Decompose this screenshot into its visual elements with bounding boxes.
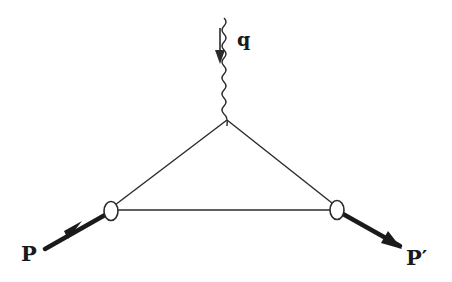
incoming-momentum-line	[45, 215, 105, 249]
photon-wavy-line	[222, 18, 227, 126]
diagram-svg	[0, 0, 452, 282]
incoming-label-p: P	[21, 243, 37, 264]
feynman-diagram: q P P′	[0, 0, 452, 282]
left-vertex-blob	[104, 202, 118, 221]
triangle-right-edge	[227, 120, 332, 203]
outgoing-arrowhead-icon	[381, 231, 402, 249]
photon-label-q: q	[237, 30, 250, 49]
outgoing-label-p-prime: P′	[406, 247, 427, 268]
right-vertex-blob	[330, 201, 344, 220]
outgoing-momentum-line	[343, 214, 402, 249]
triangle-left-edge	[115, 120, 227, 205]
